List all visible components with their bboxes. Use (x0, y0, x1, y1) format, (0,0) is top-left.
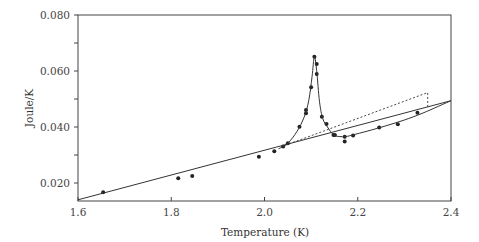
data-point (415, 111, 419, 115)
plot-area (78, 55, 451, 200)
data-point (343, 140, 347, 144)
y-tick-label: 0.060 (40, 65, 70, 77)
data-point (190, 174, 194, 178)
x-tick-label: 2.4 (443, 206, 460, 218)
x-tick-label: 2.2 (349, 206, 366, 218)
x-axis-label: Temperature (K) (221, 226, 309, 238)
y-axis-ticks: 0.0200.0400.0600.080 (40, 9, 78, 189)
y-axis-label: Joule/K (23, 89, 35, 128)
data-point (176, 176, 180, 180)
fit-curve (278, 57, 451, 149)
y-tick-label: 0.020 (40, 177, 70, 189)
chart: 1.61.82.02.22.4 0.0200.0400.0600.080 Tem… (0, 0, 479, 242)
x-tick-label: 1.8 (163, 206, 180, 218)
x-axis-ticks: 1.61.82.02.22.4 (70, 197, 460, 218)
x-tick-label: 1.6 (70, 206, 87, 218)
y-tick-label: 0.040 (40, 121, 70, 133)
y-tick-label: 0.080 (40, 9, 70, 21)
axes-frame (78, 15, 451, 201)
data-point (257, 155, 261, 159)
data-point (272, 149, 276, 153)
baseline-line (78, 101, 451, 200)
x-tick-label: 2.0 (256, 206, 273, 218)
